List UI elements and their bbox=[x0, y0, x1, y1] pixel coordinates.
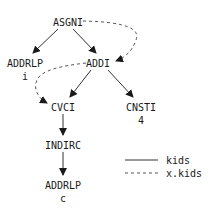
legend: kids x.kids bbox=[125, 155, 202, 179]
xedge-addi-cvci bbox=[36, 63, 86, 103]
node-addi: ADDI bbox=[86, 58, 110, 69]
edge-asgni-addrlp-i bbox=[33, 29, 58, 53]
kids-edges bbox=[33, 29, 133, 175]
legend-kids-label: kids bbox=[166, 155, 190, 166]
node-cvci: CVCI bbox=[51, 102, 75, 113]
node-cnsti: CNSTI bbox=[126, 102, 156, 113]
node-addrlp-c-sub: c bbox=[60, 193, 66, 204]
xedge-asgni-addi bbox=[83, 21, 137, 61]
node-addrlp-c: ADDRLP bbox=[45, 180, 81, 191]
edge-asgni-addi bbox=[73, 29, 96, 53]
legend-xkids-label: x.kids bbox=[166, 168, 202, 179]
edge-addi-cvci bbox=[70, 70, 91, 97]
node-cnsti-sub: 4 bbox=[138, 115, 144, 126]
node-addrlp-i: ADDRLP bbox=[7, 58, 43, 69]
node-addrlp-i-sub: i bbox=[22, 71, 28, 82]
node-indirc: INDIRC bbox=[45, 140, 81, 151]
dag-diagram: ASGNI ADDRLP i ADDI CVCI CNSTI 4 INDIRC … bbox=[0, 0, 213, 216]
node-asgni: ASGNI bbox=[53, 17, 83, 28]
edge-addi-cnsti bbox=[108, 70, 133, 97]
